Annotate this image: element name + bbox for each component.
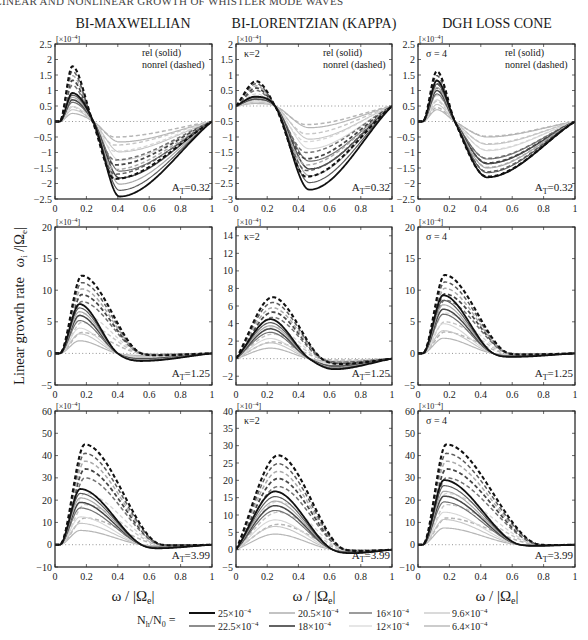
x-tick-label: 0.4 [475, 203, 488, 214]
y-tick-label: 2.5 [403, 39, 416, 50]
y-scale-label: [×10−4] [419, 217, 444, 227]
y-tick-label: 2.5 [40, 39, 53, 50]
y-tick-label: 40 [223, 406, 233, 417]
y-tick-label: 60 [405, 406, 415, 417]
y-tick-label: −2 [404, 178, 415, 189]
y-tick-label: 25 [223, 458, 233, 469]
y-tick-label: −2.5 [397, 194, 415, 205]
y-tick-label: 30 [42, 472, 52, 483]
x-axis-label-col1: ω / |Ωe| [111, 588, 154, 606]
figure: LINEAR AND NONLINEAR GROWTH OF WHISTLER … [0, 0, 588, 640]
legend-label-16e-4: 16×10−4 [376, 607, 410, 619]
panel-bi-maxwellian-at-0-32: 00.20.40.60.812.521.510.50−0.5−1−1.5−2−2… [34, 34, 215, 214]
y-tick-label: −0.5 [34, 132, 52, 143]
panel-bi-lorentzian-at-1-25: 00.20.40.60.8114121086420−2[×10−4]κ=2AT=… [222, 217, 394, 400]
column-title-bi-lorentzian: BI-LORENTZIAN (KAPPA) [232, 16, 397, 32]
y-tick-label: 50 [42, 428, 52, 439]
x-tick-label: 0.6 [506, 571, 519, 582]
x-tick-label: 0 [234, 571, 239, 582]
x-tick-label: 0.6 [506, 203, 519, 214]
nonrel-dashed-note: nonrel (dashed) [323, 59, 385, 71]
x-tick-label: 0.4 [112, 389, 125, 400]
y-tick-label: 1 [228, 70, 233, 81]
legend-label-20-5e-4: 20.5×10−4 [298, 607, 339, 619]
x-tick-label: 0 [234, 203, 239, 214]
y-scale-label: [×10−4] [56, 217, 81, 227]
x-tick-label: 0.6 [143, 571, 156, 582]
x-tick-label: 0.2 [261, 571, 274, 582]
y-tick-label: 1 [47, 85, 52, 96]
x-tick-label: 0.4 [475, 389, 488, 400]
y-tick-label: 5 [228, 527, 233, 538]
distribution-parameter-label: σ = 4 [426, 231, 447, 242]
y-tick-label: 1.5 [221, 54, 234, 65]
y-tick-label: 0 [47, 116, 52, 127]
y-axis-label-text: Linear growth rate [11, 277, 27, 385]
y-scale-label: [×10−4] [237, 401, 262, 411]
y-tick-label: 15 [405, 253, 415, 264]
x-tick-label: 0.2 [261, 203, 274, 214]
distribution-parameter-label: σ = 4 [426, 48, 447, 59]
y-tick-label: −1.5 [397, 163, 415, 174]
panel-bi-lorentzian-at-0-32: 00.20.40.60.8121.510.50−0.5−1−1.5−2−2.5−… [215, 34, 395, 214]
y-tick-label: −10 [36, 562, 52, 573]
y-scale-label: [×10−4] [56, 401, 81, 411]
y-tick-label: 0 [228, 353, 233, 364]
y-tick-label: 0 [410, 116, 415, 127]
y-tick-label: −2.5 [215, 178, 233, 189]
y-axis-label-mid: /|Ω [11, 234, 27, 256]
y-tick-label: 20 [405, 222, 415, 233]
y-tick-label: −3 [222, 194, 233, 205]
x-tick-label: 0.2 [80, 203, 93, 214]
y-tick-label: 2 [228, 39, 233, 50]
x-tick-label: 0.6 [323, 203, 336, 214]
y-tick-label: 0 [410, 539, 415, 550]
y-tick-label: 50 [405, 428, 415, 439]
y-tick-label: 4 [228, 318, 233, 329]
y-tick-label: −2 [41, 178, 52, 189]
y-tick-label: 12 [223, 248, 233, 259]
x-tick-label: 0.6 [143, 389, 156, 400]
y-tick-label: 6 [228, 301, 233, 312]
running-title: LINEAR AND NONLINEAR GROWTH OF WHISTLER … [0, 0, 343, 7]
legend-label-22-5e-4: 22.5×10−4 [218, 620, 259, 632]
y-tick-label: 15 [42, 253, 52, 264]
nonrel-dashed-note: nonrel (dashed) [505, 59, 567, 71]
x-tick-label: 1 [573, 389, 578, 400]
y-tick-label: 0 [228, 101, 233, 112]
x-tick-label: 0 [416, 203, 421, 214]
y-tick-label: 0 [228, 544, 233, 555]
y-tick-label: 2 [410, 54, 415, 65]
y-tick-label: 30 [223, 440, 233, 451]
legend: Nh/N0 = 25×10−4 22.5×10−4 20.5×10−4 18×1… [137, 607, 488, 632]
y-tick-label: 10 [405, 285, 415, 296]
y-scale-label: [×10−4] [237, 217, 262, 227]
y-tick-label: 40 [42, 450, 52, 461]
panel-bi-maxwellian-at-1-25: 00.20.40.60.8120151050−5[×10−4]AT=1.25 [41, 217, 214, 400]
y-tick-label: 2 [47, 54, 52, 65]
x-tick-label: 0.6 [143, 203, 156, 214]
x-tick-label: 1 [573, 203, 578, 214]
y-tick-label: −1 [41, 147, 52, 158]
panel-dgh-loss-cone-at-0-32: 00.20.40.60.812.521.510.50−0.5−1−1.5−2−2… [397, 34, 578, 214]
y-axis-label-symbol: ω [11, 258, 27, 268]
y-tick-label: 8 [228, 283, 233, 294]
y-tick-label: −2.5 [34, 194, 52, 205]
column-title-dgh-loss-cone: DGH LOSS CONE [442, 16, 552, 31]
x-tick-label: 0.4 [292, 389, 305, 400]
x-tick-label: 1 [210, 389, 215, 400]
x-tick-label: 0.2 [261, 389, 274, 400]
x-tick-label: 0.4 [112, 203, 125, 214]
x-tick-label: 0 [53, 389, 58, 400]
x-tick-label: 0.2 [443, 203, 456, 214]
rel-solid-note: rel (solid) [323, 47, 362, 59]
x-tick-label: 0.8 [537, 571, 550, 582]
x-tick-label: 1 [210, 203, 215, 214]
x-tick-label: 0.8 [537, 203, 550, 214]
x-axis-label-col3: ω / |Ωe| [475, 588, 518, 606]
y-axis-label-end: | [11, 227, 27, 230]
y-tick-label: 0 [47, 348, 52, 359]
distribution-parameter-label: σ = 4 [426, 415, 447, 426]
legend-label-9-6e-4: 9.6×10−4 [452, 607, 488, 619]
y-scale-label: [×10−4] [56, 34, 81, 44]
